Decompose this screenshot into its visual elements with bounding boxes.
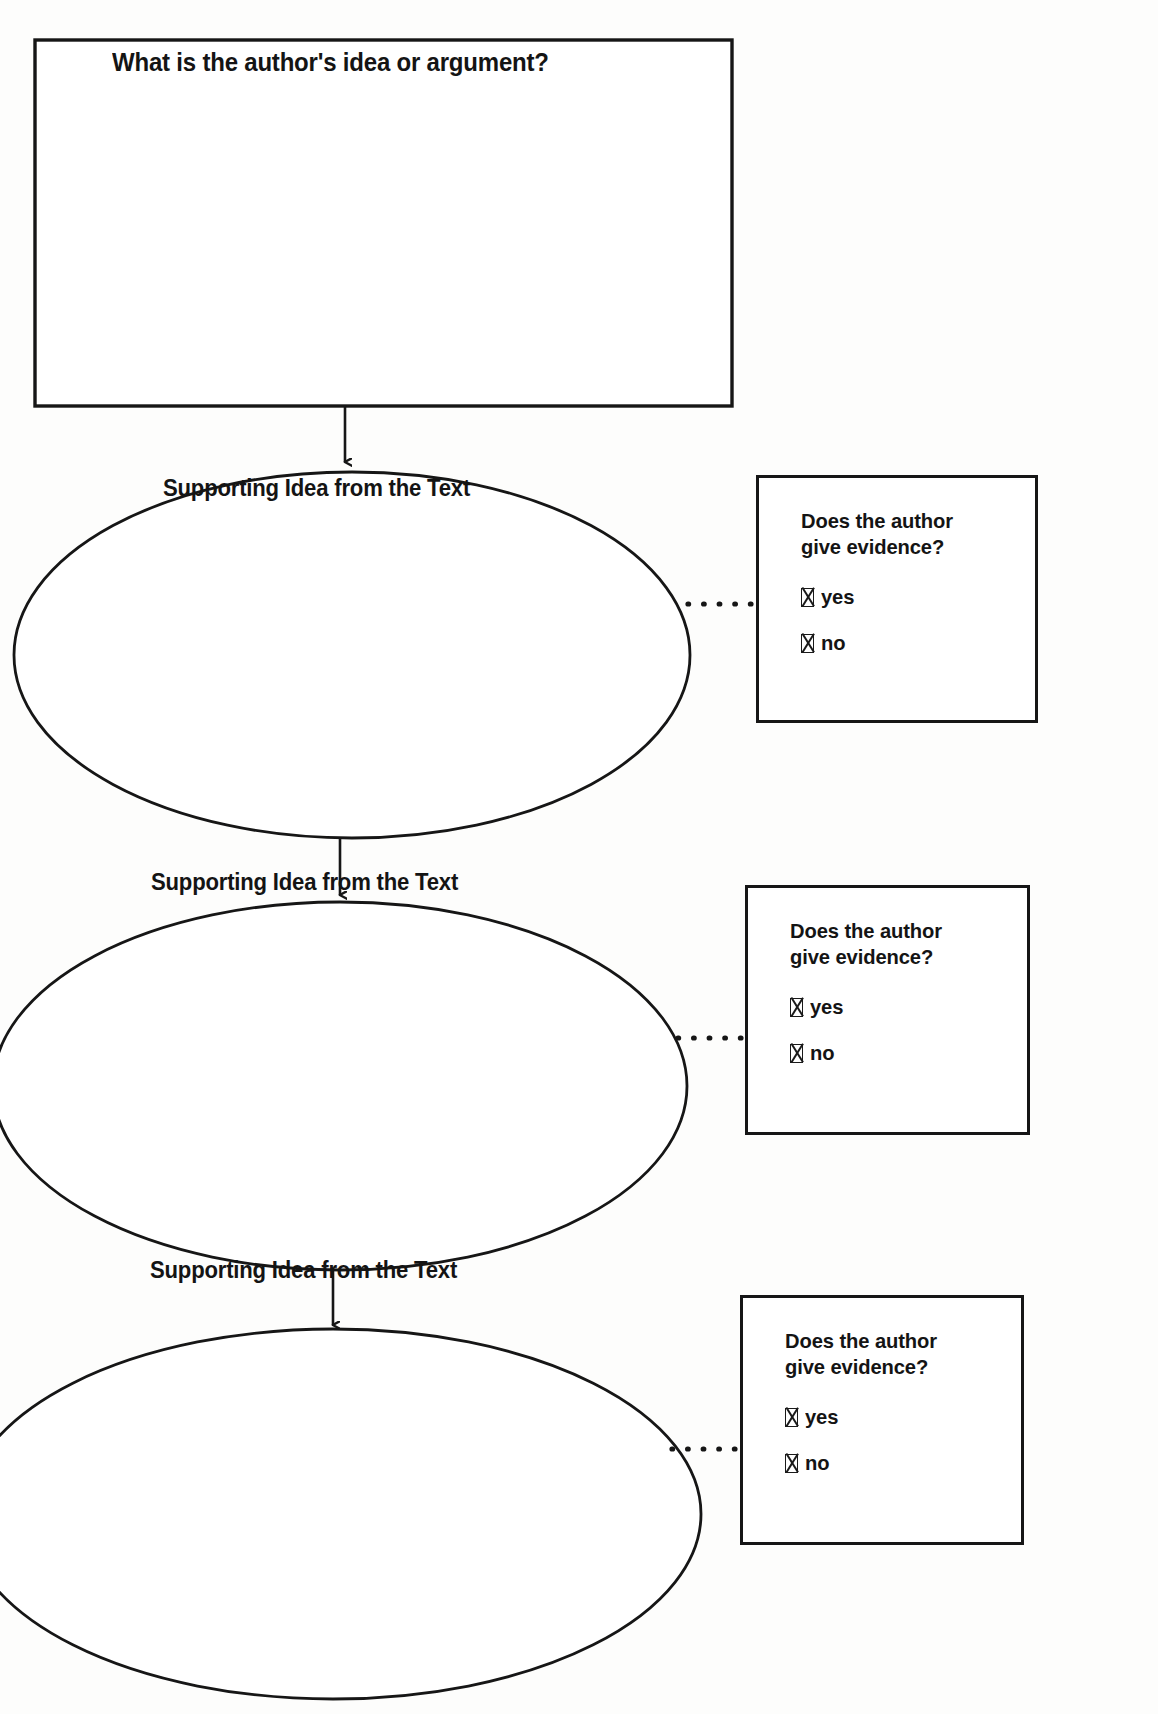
checkbox-x-icon[interactable]	[790, 1044, 803, 1063]
worksheet-page: What is the author's idea or argument? S…	[0, 0, 1158, 1714]
supporting-idea-label-3: Supporting Idea from the Text	[150, 1257, 457, 1284]
supporting-idea-ellipse-3[interactable]	[0, 1329, 701, 1699]
evidence-option-yes-1[interactable]: yes	[801, 585, 1035, 609]
supporting-idea-ellipse-2[interactable]	[0, 902, 687, 1270]
evidence-option-no-2[interactable]: no	[790, 1041, 1027, 1065]
evidence-box-1: Does the author give evidence? yes no	[756, 475, 1038, 723]
evidence-box-2: Does the author give evidence? yes no	[745, 885, 1030, 1135]
evidence-question-3: Does the author give evidence?	[785, 1328, 1012, 1379]
evidence-option-yes-3[interactable]: yes	[785, 1405, 1021, 1429]
main-question-box[interactable]	[35, 40, 732, 406]
checkbox-x-icon[interactable]	[785, 1408, 798, 1427]
checkbox-x-icon[interactable]	[801, 588, 814, 607]
evidence-option-label: yes	[821, 585, 854, 609]
evidence-option-label: no	[821, 631, 845, 655]
checkbox-x-icon[interactable]	[801, 634, 814, 653]
page-title-main-question: What is the author's idea or argument?	[112, 48, 549, 77]
evidence-option-label: no	[805, 1451, 829, 1475]
evidence-option-yes-2[interactable]: yes	[790, 995, 1027, 1019]
evidence-question-1: Does the author give evidence?	[801, 508, 1026, 559]
supporting-idea-ellipse-1[interactable]	[14, 472, 690, 838]
evidence-option-no-1[interactable]: no	[801, 631, 1035, 655]
evidence-option-label: yes	[805, 1405, 838, 1429]
evidence-question-2: Does the author give evidence?	[790, 918, 1018, 969]
evidence-option-label: no	[810, 1041, 834, 1065]
evidence-option-label: yes	[810, 995, 843, 1019]
evidence-option-no-3[interactable]: no	[785, 1451, 1021, 1475]
supporting-idea-label-2: Supporting Idea from the Text	[151, 869, 458, 896]
evidence-box-3: Does the author give evidence? yes no	[740, 1295, 1024, 1545]
checkbox-x-icon[interactable]	[785, 1454, 798, 1473]
supporting-idea-label-1: Supporting Idea from the Text	[163, 475, 470, 502]
checkbox-x-icon[interactable]	[790, 998, 803, 1017]
